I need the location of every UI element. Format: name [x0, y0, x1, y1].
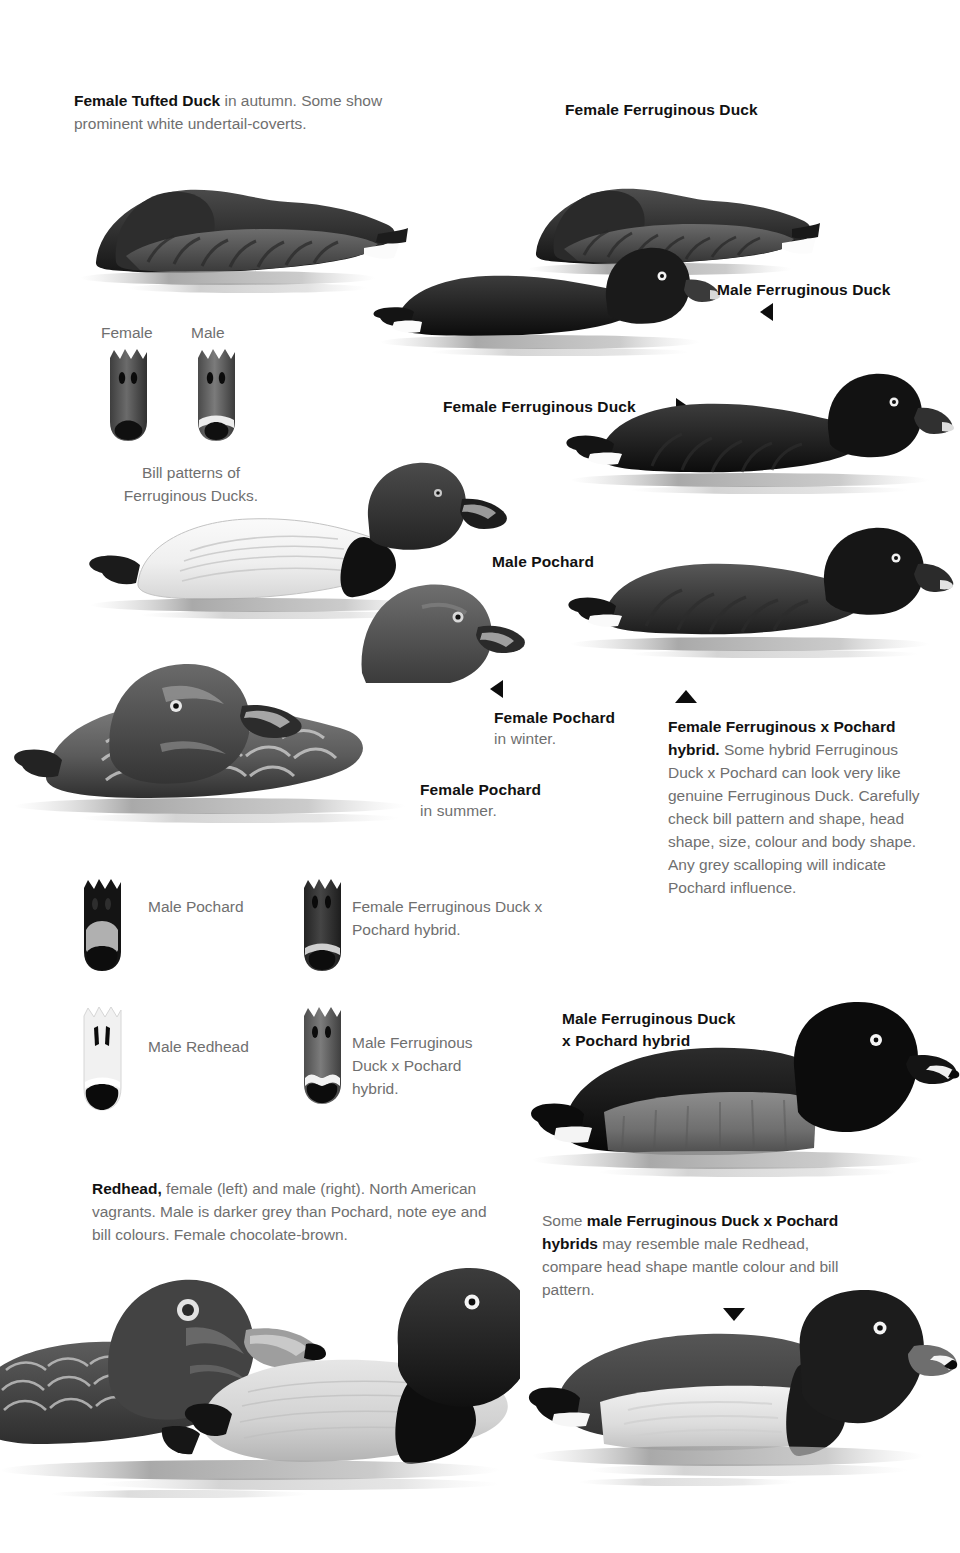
triangle-left-icon-female-pochard — [490, 680, 503, 698]
caption-male-hybrid-note-pre: Some — [542, 1212, 587, 1229]
label-bill-male: Male — [191, 322, 225, 345]
caption-bill-male-hybrid: Male Ferruginous Duck x Pochard hybrid. — [352, 1032, 502, 1101]
caption-female-tufted-duck-bold: Female Tufted Duck — [74, 92, 220, 109]
bill-diagram-ferruginous-male — [192, 348, 240, 448]
illustration-female-ferruginous-pochard-hybrid — [560, 520, 955, 665]
caption-redhead-bold: Redhead, — [92, 1180, 162, 1197]
label-female-pochard-summer-rest: in summer. — [420, 802, 497, 819]
illustration-male-hybrid-redhead-like — [528, 1290, 958, 1500]
caption-bill-male-pochard: Male Pochard — [148, 896, 244, 919]
triangle-up-icon-hybrid-female — [675, 690, 697, 703]
illustration-redhead-pair — [0, 1258, 520, 1508]
caption-female-tufted-duck: Female Tufted Duck in autumn. Some show … — [74, 90, 404, 136]
caption-bill-female-hybrid: Female Ferruginous Duck x Pochard hybrid… — [352, 896, 567, 942]
caption-bill-male-redhead: Male Redhead — [148, 1036, 249, 1059]
label-female-ferruginous-duck-top: Female Ferruginous Duck — [565, 100, 758, 121]
label-female-pochard-summer-bold: Female Pochard — [420, 781, 541, 798]
label-female-pochard-winter: Female Pochard in winter. — [494, 708, 615, 750]
bill-diagram-ferruginous-female — [104, 348, 152, 448]
caption-hybrid-female-rest: Some hybrid Ferruginous Duck x Pochard c… — [668, 741, 920, 896]
bill-diagram-male-hybrid — [298, 1006, 346, 1112]
caption-redhead: Redhead, female (left) and male (right).… — [92, 1178, 492, 1247]
illustration-female-tufted-duck — [78, 150, 408, 300]
label-female-pochard-summer: Female Pochard in summer. — [420, 780, 541, 822]
bill-diagram-female-hybrid — [298, 878, 346, 978]
label-male-ferruginous-duck: Male Ferruginous Duck — [717, 280, 891, 301]
label-female-pochard-winter-rest: in winter. — [494, 730, 556, 747]
caption-male-hybrid-note: Some male Ferruginous Duck x Pochard hyb… — [542, 1210, 847, 1302]
bill-diagram-male-pochard — [78, 878, 126, 978]
illustration-male-ferruginous-pochard-hybrid — [528, 1000, 960, 1180]
label-bill-female: Female — [101, 322, 153, 345]
illustration-male-ferruginous-duck-right — [560, 362, 955, 497]
triangle-left-icon-male-ferruginous — [760, 303, 773, 321]
label-female-pochard-winter-bold: Female Pochard — [494, 709, 615, 726]
illustration-female-pochard-summer — [10, 648, 470, 838]
bill-diagram-male-redhead — [78, 1006, 126, 1120]
illustration-male-ferruginous-duck-upper — [370, 232, 720, 362]
caption-female-ferruginous-pochard-hybrid: Female Ferruginous x Pochard hybrid. Som… — [668, 716, 920, 900]
